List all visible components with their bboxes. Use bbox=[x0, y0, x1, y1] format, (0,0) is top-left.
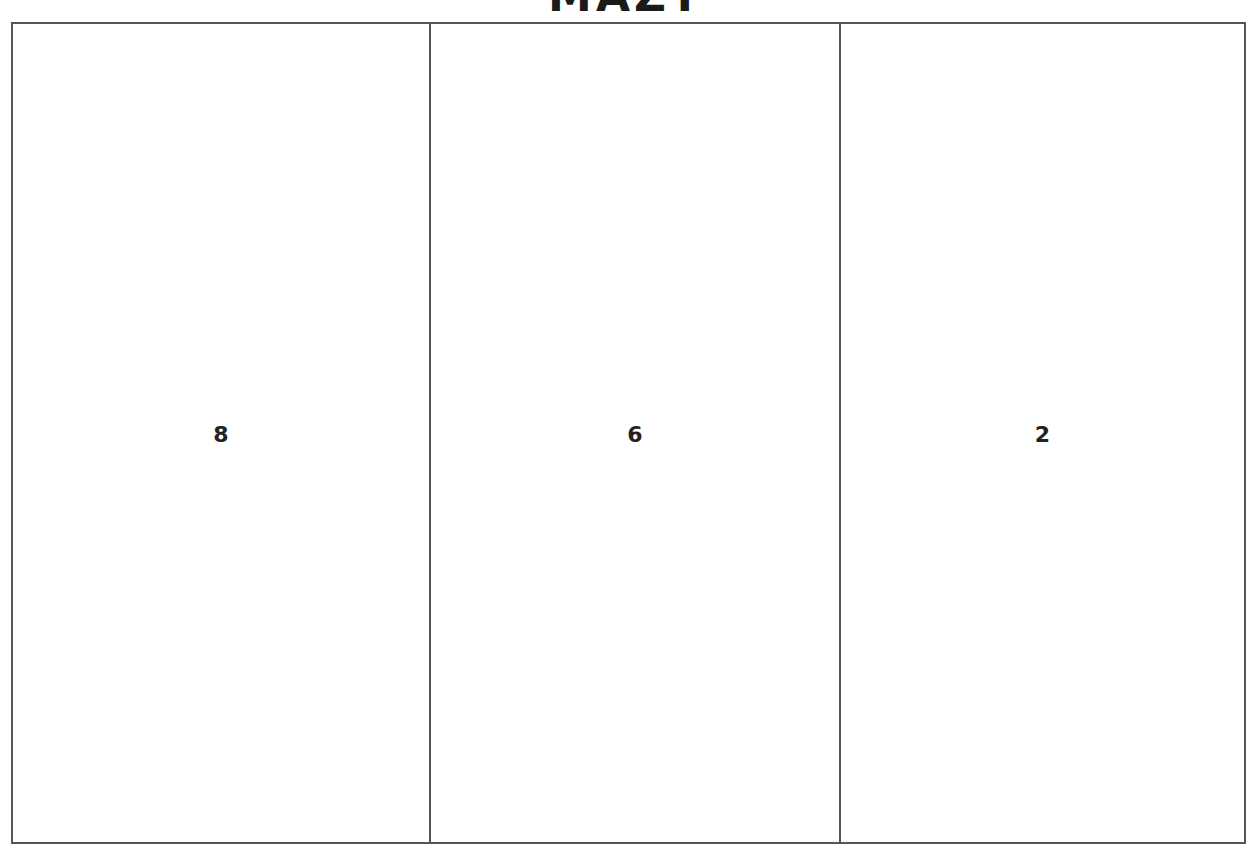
partition-cell: 8 bbox=[13, 24, 429, 842]
partition-cell: 2 bbox=[839, 24, 1244, 842]
cell-value-label: 8 bbox=[213, 422, 228, 447]
partition-cell: 6 bbox=[429, 24, 839, 842]
cell-value-label: 6 bbox=[627, 422, 642, 447]
cell-value-label: 2 bbox=[1035, 422, 1050, 447]
diagram-title: MAZT bbox=[0, 0, 1252, 18]
partition-frame: 8 6 2 bbox=[11, 22, 1246, 844]
